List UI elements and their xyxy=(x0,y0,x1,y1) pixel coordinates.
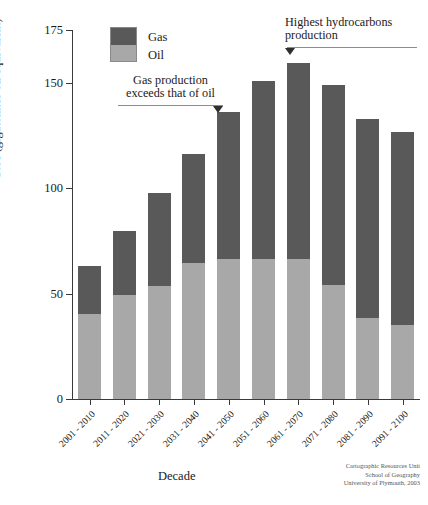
bar-2051-2060 xyxy=(252,81,275,399)
y-axis-tick-label: 0 xyxy=(57,393,63,406)
bar-segment-gas xyxy=(148,193,171,286)
y-axis-tick-label: 50 xyxy=(51,287,64,300)
bar-2071-2080 xyxy=(322,85,345,399)
bar-segment-gas xyxy=(287,63,310,259)
legend-swatch-gas xyxy=(111,28,136,45)
y-axis-tick xyxy=(66,188,72,189)
y-axis-tick xyxy=(66,83,72,84)
x-axis-tick xyxy=(90,399,91,405)
bar-2031-2040 xyxy=(182,154,205,399)
annotation-highest-production-text: Highest hydrocarbons production xyxy=(285,16,417,43)
bar-segment-oil xyxy=(287,259,310,399)
bar-2091-2100 xyxy=(391,132,414,399)
bar-segment-oil xyxy=(113,295,136,399)
x-axis-tick xyxy=(403,399,404,405)
legend-swatch-oil xyxy=(111,45,136,62)
credits-text: Cartographic Resources Unit School of Ge… xyxy=(344,462,420,488)
bar-segment-gas xyxy=(356,119,379,318)
legend-swatch xyxy=(110,27,137,62)
x-axis-tick xyxy=(333,399,334,405)
y-axis-tick xyxy=(66,30,72,31)
y-axis-tick-label: 100 xyxy=(44,182,63,195)
bar-2041-2050 xyxy=(217,112,240,399)
x-axis-tick xyxy=(229,399,230,405)
annotation-highest-production: Highest hydrocarbons production xyxy=(285,16,417,43)
bar-segment-oil xyxy=(182,263,205,399)
bar-segment-gas xyxy=(182,154,205,263)
stacked-bar-chart: 050100150175 Gtoe (gigatonnes oil equiva… xyxy=(0,0,428,505)
annotation-rule xyxy=(287,47,417,48)
y-axis-tick xyxy=(66,294,72,295)
bar-segment-gas xyxy=(322,85,345,285)
annotation-rule xyxy=(118,105,223,106)
x-axis-tick xyxy=(159,399,160,405)
annotation-arrow-down-icon xyxy=(285,48,295,55)
y-axis-tick xyxy=(66,399,72,400)
bar-segment-oil xyxy=(217,259,240,399)
x-axis-tick xyxy=(264,399,265,405)
x-axis-tick xyxy=(298,399,299,405)
bar-segment-oil xyxy=(322,285,345,399)
bar-segment-gas xyxy=(252,81,275,259)
x-axis-tick xyxy=(124,399,125,405)
bar-2001-2010 xyxy=(78,266,101,399)
bar-segment-oil xyxy=(356,318,379,399)
y-axis-tick-label: 175 xyxy=(44,24,63,37)
x-axis-tick xyxy=(368,399,369,405)
bar-2061-2070 xyxy=(287,63,310,399)
y-axis-title: Gtoe (gigatonnes oil equivalent) xyxy=(0,0,3,224)
x-axis-tick xyxy=(194,399,195,405)
bar-segment-oil xyxy=(252,259,275,399)
bar-segment-gas xyxy=(113,231,136,294)
annotation-gas-exceeds-oil-text: Gas production exceeds that of oil xyxy=(118,74,223,101)
legend-label-oil: Oil xyxy=(148,49,164,62)
bar-segment-oil xyxy=(148,286,171,399)
bar-segment-gas xyxy=(78,266,101,313)
bar-2081-2090 xyxy=(356,119,379,399)
bar-segment-oil xyxy=(391,325,414,399)
bar-segment-gas xyxy=(217,112,240,259)
bar-2021-2030 xyxy=(148,193,171,399)
x-axis-title: Decade xyxy=(158,470,195,483)
legend-label-gas: Gas xyxy=(148,31,167,44)
annotation-gas-exceeds-oil: Gas production exceeds that of oil xyxy=(118,74,223,101)
y-axis-tick-label: 150 xyxy=(44,76,63,89)
bar-segment-gas xyxy=(391,132,414,325)
bar-2011-2020 xyxy=(113,231,136,399)
annotation-arrow-down-icon xyxy=(213,106,223,113)
bar-segment-oil xyxy=(78,314,101,399)
